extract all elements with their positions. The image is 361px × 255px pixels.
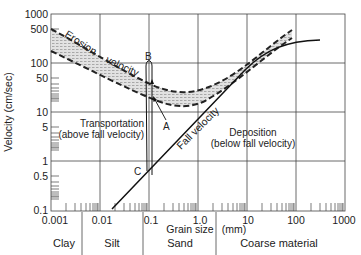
transport-sublabel: (above fall velocity) (58, 129, 144, 140)
y-tick-labels: 1000 500 100 50 10 5 1 0.5 0.1 (25, 8, 49, 216)
x-minor-ticks (66, 203, 343, 211)
svg-text:1000: 1000 (25, 8, 49, 20)
svg-text:0.1: 0.1 (144, 214, 159, 226)
svg-text:10: 10 (36, 106, 48, 118)
x-axis-unit: (mm) (222, 223, 247, 235)
svg-text:0.01: 0.01 (92, 214, 113, 226)
svg-text:Silt: Silt (104, 237, 119, 249)
svg-text:1000: 1000 (332, 214, 356, 226)
deposition-label: Deposition (229, 127, 276, 138)
svg-text:Sand: Sand (167, 237, 193, 249)
label-a: A (163, 121, 170, 132)
label-c: C (134, 166, 141, 177)
arrow-up-icon (150, 79, 154, 84)
svg-text:1: 1 (42, 155, 48, 167)
svg-text:Clay: Clay (53, 237, 76, 249)
y-minor-ticks (51, 29, 59, 199)
svg-text:50: 50 (36, 72, 48, 84)
deposition-sublabel: (below fall velocity) (211, 138, 295, 149)
label-b: B (145, 51, 152, 62)
svg-text:Coarse material: Coarse material (240, 237, 318, 249)
svg-text:500: 500 (30, 23, 48, 35)
y-axis-label: Velocity (cm/sec) (2, 72, 14, 151)
hjulstrom-chart: Erosion velocity Fall velocity B A C Tra… (0, 0, 361, 255)
size-classes: Clay Silt Sand Coarse material (53, 237, 318, 249)
x-axis-label: Grain size (166, 223, 213, 235)
svg-text:0.001: 0.001 (42, 214, 68, 226)
transport-label: Transportation (80, 118, 144, 129)
svg-text:100: 100 (287, 214, 305, 226)
svg-text:100: 100 (30, 57, 48, 69)
svg-text:0.5: 0.5 (33, 170, 48, 182)
svg-text:5: 5 (42, 121, 48, 133)
